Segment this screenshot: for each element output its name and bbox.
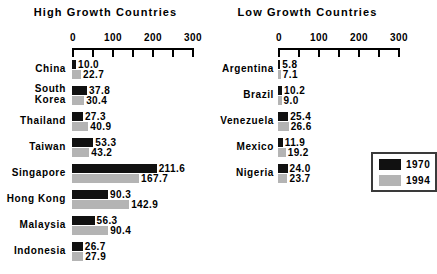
bar-value-label: 19.2 xyxy=(286,148,309,157)
x-axis-tick-label: 200 xyxy=(350,32,368,43)
panel-high-growth: High Growth Countries 0100200300 China10… xyxy=(0,0,208,274)
bar-fill-1994 xyxy=(72,96,84,105)
country-label: Mexico xyxy=(208,141,274,152)
bar-pair: 26.727.9 xyxy=(72,242,106,262)
bar-value-label: 26.7 xyxy=(83,242,106,251)
bar-1970: 11.9 xyxy=(278,138,309,147)
bar-pair: 5.87.1 xyxy=(278,60,298,80)
bar-1994: 27.9 xyxy=(72,252,106,261)
bar-fill-1970 xyxy=(72,190,108,199)
panel-low-growth: Low Growth Countries 0100200300 Argentin… xyxy=(208,0,416,274)
x-axis-tick xyxy=(358,48,360,57)
country-label: Indonesia xyxy=(0,245,66,256)
bar-value-label: 27.9 xyxy=(83,252,106,261)
chart-legend: 19701994 xyxy=(371,152,437,192)
bar-value-label: 56.3 xyxy=(95,216,118,225)
bar-1970: 90.3 xyxy=(72,190,158,199)
bar-1970: 10.2 xyxy=(278,86,305,95)
bar-pair: 37.830.4 xyxy=(72,86,110,106)
country-label: Nigeria xyxy=(208,167,274,178)
bar-1994: 30.4 xyxy=(72,96,110,105)
bar-value-label: 22.7 xyxy=(81,70,104,79)
bar-value-label: 23.7 xyxy=(287,174,310,183)
bar-rows-high-growth: China10.022.7South Korea37.830.4Thailand… xyxy=(0,60,208,268)
bar-fill-1994 xyxy=(72,122,88,131)
x-axis-tick xyxy=(72,48,74,57)
bar-row: Indonesia26.727.9 xyxy=(0,242,208,268)
bar-1970: 37.8 xyxy=(72,86,110,95)
bar-1970: 24.0 xyxy=(278,164,311,173)
bar-1994: 40.9 xyxy=(72,122,111,131)
bar-fill-1994 xyxy=(72,174,139,183)
bar-value-label: 211.6 xyxy=(157,164,185,173)
bar-fill-1994 xyxy=(278,174,287,183)
bar-fill-1970 xyxy=(278,164,288,173)
x-axis-tick xyxy=(172,48,174,57)
x-axis-tick-label: 300 xyxy=(390,32,408,43)
bar-1994: 167.7 xyxy=(72,174,185,183)
bar-fill-1994 xyxy=(278,122,289,131)
bar-value-label: 10.0 xyxy=(76,60,99,69)
bar-pair: 10.022.7 xyxy=(72,60,104,80)
bar-fill-1994 xyxy=(72,252,83,261)
country-label: Hong Kong xyxy=(0,193,66,204)
x-axis-tick xyxy=(338,48,340,57)
x-axis-tick xyxy=(318,48,320,57)
bar-1970: 27.3 xyxy=(72,112,111,121)
legend-label: 1994 xyxy=(401,175,430,186)
bar-value-label: 40.9 xyxy=(88,122,111,131)
bar-pair: 90.3142.9 xyxy=(72,190,158,210)
bar-value-label: 7.1 xyxy=(281,70,298,79)
bar-pair: 10.29.0 xyxy=(278,86,305,106)
bar-fill-1970 xyxy=(72,164,157,173)
bar-value-label: 5.8 xyxy=(280,60,297,69)
bar-1994: 7.1 xyxy=(278,70,298,79)
bar-1994: 90.4 xyxy=(72,226,131,235)
bar-value-label: 30.4 xyxy=(84,96,107,105)
bar-fill-1970 xyxy=(72,112,83,121)
bar-1994: 23.7 xyxy=(278,174,311,183)
bar-row: Taiwan53.343.2 xyxy=(0,138,208,164)
bar-row: Brazil10.29.0 xyxy=(208,86,416,112)
bar-value-label: 90.3 xyxy=(108,190,131,199)
bar-value-label: 9.0 xyxy=(282,96,299,105)
bar-1994: 19.2 xyxy=(278,148,309,157)
bar-value-label: 11.9 xyxy=(283,138,306,147)
x-axis-tick xyxy=(92,48,94,57)
bar-fill-1970 xyxy=(72,86,87,95)
bar-fill-1994 xyxy=(72,200,129,209)
bar-1970: 56.3 xyxy=(72,216,131,225)
x-axis-tick-label: 100 xyxy=(104,32,122,43)
bar-pair: 53.343.2 xyxy=(72,138,116,158)
bar-pair: 25.426.6 xyxy=(278,112,312,132)
bar-fill-1994 xyxy=(72,70,81,79)
bar-1970: 25.4 xyxy=(278,112,312,121)
bar-row: Singapore211.6167.7 xyxy=(0,164,208,190)
x-axis-tick xyxy=(112,48,114,57)
bar-row: Thailand27.340.9 xyxy=(0,112,208,138)
bar-row: Venezuela25.426.6 xyxy=(208,112,416,138)
legend-entry: 1970 xyxy=(379,159,430,171)
bar-1994: 22.7 xyxy=(72,70,104,79)
bar-fill-1994 xyxy=(278,148,286,157)
bar-fill-1994 xyxy=(72,226,108,235)
x-axis-tick xyxy=(192,48,194,57)
bar-fill-1970 xyxy=(278,112,288,121)
bar-fill-1970 xyxy=(72,242,83,251)
legend-label: 1970 xyxy=(401,159,430,170)
country-label: China xyxy=(0,63,66,74)
bar-value-label: 90.4 xyxy=(108,226,131,235)
bar-1994: 43.2 xyxy=(72,148,116,157)
country-label: Venezuela xyxy=(208,115,274,126)
x-axis-tick xyxy=(398,48,400,57)
panel-title-low-growth: Low Growth Countries xyxy=(210,6,405,18)
bar-value-label: 53.3 xyxy=(93,138,116,147)
country-label: Taiwan xyxy=(0,141,66,152)
bar-pair: 24.023.7 xyxy=(278,164,311,184)
bar-1970: 211.6 xyxy=(72,164,185,173)
bar-value-label: 167.7 xyxy=(139,174,168,183)
bar-1970: 53.3 xyxy=(72,138,116,147)
x-axis-tick xyxy=(278,48,280,57)
x-axis-tick-label: 200 xyxy=(144,32,162,43)
bar-pair: 27.340.9 xyxy=(72,112,111,132)
